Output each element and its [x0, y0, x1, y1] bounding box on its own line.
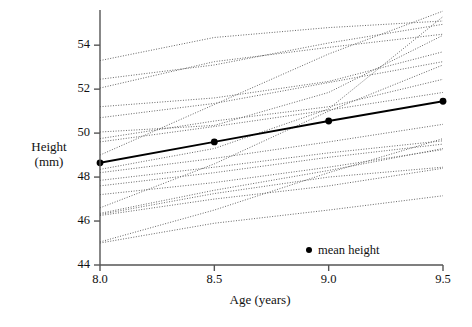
x-tick-label-9-5: 9.5	[426, 272, 460, 287]
y-tick-label-44: 44	[66, 257, 90, 272]
x-tick-label-9-0: 9.0	[312, 272, 346, 287]
x-tick-label-8-0: 8.0	[83, 272, 117, 287]
x-tick-label-8-5: 8.5	[197, 272, 231, 287]
y-tick-label-54: 54	[66, 37, 90, 52]
growth-chart-figure: 44 46 48 50 52 54 8.0 8.5 9.0 9.5 Height…	[0, 0, 472, 327]
legend-marker-icon	[306, 247, 312, 253]
y-tick-label-50: 50	[66, 125, 90, 140]
y-tick-label-46: 46	[66, 213, 90, 228]
mean-data-point	[440, 98, 447, 105]
y-tick-label-48: 48	[66, 169, 90, 184]
y-tick-label-52: 52	[66, 81, 90, 96]
legend: mean height	[306, 243, 379, 258]
y-axis-title: Height (mm)	[6, 140, 92, 169]
legend-label-mean-height: mean height	[318, 243, 379, 257]
y-axis-title-line1: Height	[6, 140, 92, 155]
x-axis-title: Age (years)	[180, 292, 340, 308]
y-axis-title-line2: (mm)	[6, 155, 92, 170]
mean-data-point	[211, 138, 218, 145]
mean-data-point	[325, 118, 332, 125]
